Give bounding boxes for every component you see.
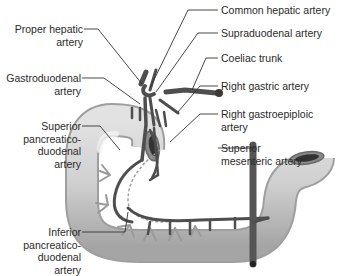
label-line: artery bbox=[23, 264, 81, 276]
label-line: Superior bbox=[221, 142, 302, 155]
label-proper-hepatic-artery: Proper hepatic artery bbox=[15, 23, 83, 48]
label-line: artery bbox=[221, 121, 313, 134]
label-line: artery bbox=[6, 85, 81, 98]
label-line: Gastroduodenal bbox=[6, 72, 81, 85]
label-line: pancreatico- bbox=[23, 133, 81, 146]
label-line: Proper hepatic bbox=[15, 23, 83, 36]
label-supraduodenal-artery: Supraduodenal artery bbox=[221, 27, 322, 40]
label-line: Right gastroepiploic bbox=[221, 108, 313, 121]
label-line: artery bbox=[15, 36, 83, 49]
label-superior-mesenteric-artery: Superior mesenteric artery bbox=[221, 142, 302, 167]
label-line: duodenal bbox=[23, 251, 81, 264]
label-right-gastric-artery: Right gastric artery bbox=[221, 80, 309, 93]
label-coeliac-trunk: Coeliac trunk bbox=[221, 52, 282, 65]
label-line: artery bbox=[23, 158, 81, 171]
label-common-hepatic-artery: Common hepatic artery bbox=[221, 4, 330, 17]
label-superior-pancreaticoduodenal-artery: Superior pancreatico- duodenal artery bbox=[23, 120, 81, 170]
label-line: pancreatico- bbox=[23, 239, 81, 252]
label-line: Inferior bbox=[23, 226, 81, 239]
label-gastroduodenal-artery: Gastroduodenal artery bbox=[6, 72, 81, 97]
label-line: Superior bbox=[23, 120, 81, 133]
label-line: duodenal bbox=[23, 145, 81, 158]
label-line: mesenteric artery bbox=[221, 155, 302, 168]
label-inferior-pancreaticoduodenal-artery: Inferior pancreatico- duodenal artery bbox=[23, 226, 81, 276]
label-right-gastroepiploic-artery: Right gastroepiploic artery bbox=[221, 108, 313, 133]
